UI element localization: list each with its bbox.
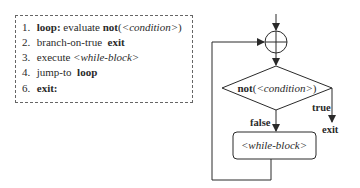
exit-label: exit bbox=[322, 124, 339, 135]
false-label: false bbox=[250, 117, 271, 128]
true-label: true bbox=[312, 102, 331, 113]
while-block-label: <while-block> bbox=[241, 139, 307, 151]
decision-label: not(<condition>) bbox=[237, 82, 316, 95]
flowchart: not(<condition>) true exit false <while-… bbox=[0, 0, 360, 188]
